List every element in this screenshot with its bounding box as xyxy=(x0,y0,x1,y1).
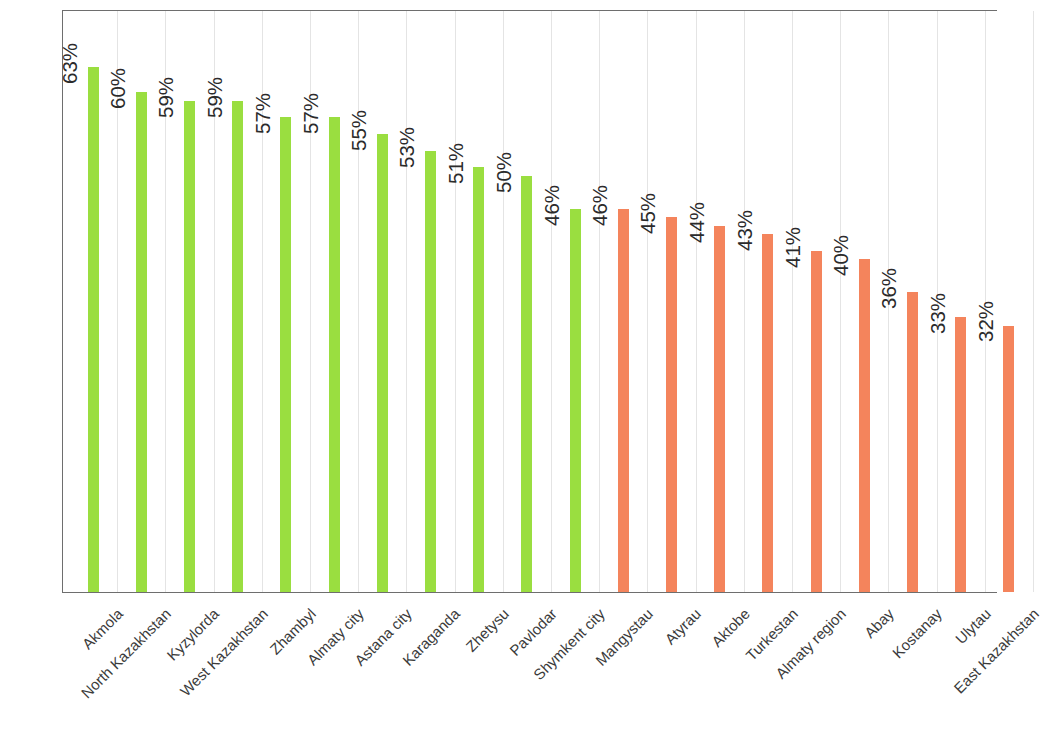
bar[interactable] xyxy=(762,234,773,592)
gridline xyxy=(406,11,407,592)
category-label[interactable]: Aktobe xyxy=(708,605,753,650)
bar-value-label: 60% xyxy=(106,68,130,109)
bar[interactable] xyxy=(184,101,195,592)
bar[interactable] xyxy=(714,226,725,592)
category-label[interactable]: Zhetysu xyxy=(462,605,512,655)
category-label[interactable]: Ulytau xyxy=(952,605,994,647)
bar-value-label: 33% xyxy=(926,293,950,334)
bar-value-label: 40% xyxy=(829,235,853,276)
bar-value-label: 44% xyxy=(685,202,709,243)
bar-value-label: 53% xyxy=(395,127,419,168)
category-label[interactable]: East Kazakhstan xyxy=(950,605,1042,697)
gridline xyxy=(647,11,648,592)
gridline xyxy=(551,11,552,592)
bar[interactable] xyxy=(473,167,484,592)
bar-value-label: 50% xyxy=(492,152,516,193)
gridline xyxy=(696,11,697,592)
bar-value-label: 45% xyxy=(636,193,660,234)
bar-value-label: 43% xyxy=(733,210,757,251)
bar[interactable] xyxy=(955,317,966,592)
bar-value-label: 57% xyxy=(251,93,275,134)
bar[interactable] xyxy=(425,151,436,592)
bar-value-label: 55% xyxy=(347,110,371,151)
gridline xyxy=(503,11,504,592)
bar-value-label: 59% xyxy=(154,77,178,118)
bar[interactable] xyxy=(88,67,99,592)
bar-value-label: 59% xyxy=(203,77,227,118)
bar[interactable] xyxy=(232,101,243,592)
bar-value-label: 46% xyxy=(588,185,612,226)
bar[interactable] xyxy=(907,292,918,592)
bar[interactable] xyxy=(618,209,629,592)
bar[interactable] xyxy=(570,209,581,592)
gridline xyxy=(840,11,841,592)
bar[interactable] xyxy=(377,134,388,592)
bar-value-label: 63% xyxy=(58,43,82,84)
gridline xyxy=(1033,11,1034,592)
bar-value-label: 41% xyxy=(781,226,805,267)
gridline xyxy=(792,11,793,592)
category-label[interactable]: West Kazakhstan xyxy=(176,605,270,699)
bar-value-label: 46% xyxy=(540,185,564,226)
category-label[interactable]: Abay xyxy=(861,605,897,641)
bar[interactable] xyxy=(666,217,677,592)
bar-value-label: 51% xyxy=(444,143,468,184)
category-label[interactable]: Atyrau xyxy=(662,605,705,648)
bar[interactable] xyxy=(859,259,870,592)
bar[interactable] xyxy=(280,117,291,592)
bar-value-label: 57% xyxy=(299,93,323,134)
gridline xyxy=(599,11,600,592)
bar[interactable] xyxy=(1003,326,1014,593)
gridline xyxy=(358,11,359,592)
bar-value-label: 36% xyxy=(877,268,901,309)
bar[interactable] xyxy=(329,117,340,592)
bar[interactable] xyxy=(136,92,147,592)
category-label[interactable]: Kostanay xyxy=(889,605,945,661)
bar[interactable] xyxy=(521,176,532,592)
gridline xyxy=(744,11,745,592)
bar-value-label: 32% xyxy=(974,301,998,342)
category-label[interactable]: Akmola xyxy=(79,605,126,652)
bar[interactable] xyxy=(811,251,822,592)
gridline xyxy=(455,11,456,592)
category-label[interactable]: North Kazakhstan xyxy=(78,605,174,701)
